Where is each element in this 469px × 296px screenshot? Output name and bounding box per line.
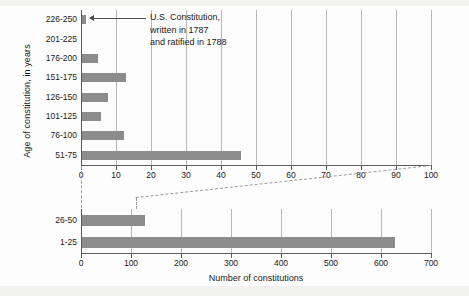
callout-leader-line: [93, 18, 146, 19]
x-axis-title: Number of constitutions: [156, 273, 356, 283]
axis-tick-label: 700: [411, 258, 451, 268]
callout-line-1: U.S. Constitution,: [150, 11, 220, 24]
axis-tick-label: 100: [411, 170, 451, 180]
axis-tick-label: 300: [211, 258, 251, 268]
axis-tick-label: 400: [261, 258, 301, 268]
axis-tick-label: 50: [236, 170, 276, 180]
upper-panel: [81, 10, 431, 165]
category-label: 101-125: [46, 111, 77, 121]
axis-tick-label: 40: [201, 170, 241, 180]
axis-tick-label: 600: [361, 258, 401, 268]
axis-tick-label: 100: [111, 258, 151, 268]
callout-line-3: and ratified in 1788: [150, 36, 227, 49]
break-connector-right-drop: [136, 198, 137, 209]
upper-value-axis: [81, 10, 432, 165]
axis-tick-label: 500: [311, 258, 351, 268]
axis-tick-label: 20: [131, 170, 171, 180]
category-label: 76-100: [51, 130, 77, 140]
category-label: 201-225: [46, 34, 77, 44]
y-axis-title: Age of constitution, in years: [22, 13, 32, 189]
lower-panel: [81, 209, 431, 253]
callout-line-2: written in 1787: [150, 24, 209, 37]
chart-figure: Age of constitution, in years 226-250201…: [0, 0, 469, 296]
page-texture-top: [0, 0, 469, 6]
break-connector-left: [81, 166, 82, 208]
axis-tick-label: 90: [376, 170, 416, 180]
category-label: 1-25: [60, 237, 77, 247]
category-label: 176-200: [46, 53, 77, 63]
category-label: 151-175: [46, 72, 77, 82]
axis-tick-label: 30: [166, 170, 206, 180]
category-label: 226-250: [46, 14, 77, 24]
category-label: 126-150: [46, 92, 77, 102]
axis-tick-label: 0: [61, 258, 101, 268]
axis-tick-label: 10: [96, 170, 136, 180]
category-label: 51-75: [55, 150, 77, 160]
lower-value-axis: [81, 209, 432, 253]
axis-tick-label: 200: [161, 258, 201, 268]
page-texture-bottom: [0, 286, 469, 296]
axis-line: [81, 253, 432, 254]
category-label: 26-50: [55, 215, 77, 225]
